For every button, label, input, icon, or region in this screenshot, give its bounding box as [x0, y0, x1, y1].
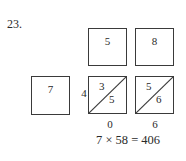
- lattice-cell-2: 5 6: [135, 76, 174, 114]
- multiplicand-digit-box-1: 5: [88, 28, 127, 66]
- lattice-cell-1-ones: 5: [109, 94, 115, 105]
- lattice-cell-1: 3 5: [88, 76, 127, 114]
- lattice-cell-2-tens: 5: [146, 81, 152, 92]
- multiplicand-digit-box-2: 8: [135, 28, 174, 66]
- bottom-sum-1: 0: [105, 119, 115, 130]
- multiplicand-digit-1: 5: [89, 36, 126, 47]
- diagonal-line: [136, 77, 173, 113]
- lattice-cell-1-tens: 3: [99, 81, 105, 92]
- result-equation: 7 × 58 = 406: [96, 134, 160, 147]
- multiplicand-digit-2: 8: [136, 36, 173, 47]
- lattice-cell-2-ones: 6: [156, 94, 162, 105]
- left-carry-digit: 4: [80, 88, 88, 99]
- multiplier-digit: 7: [32, 84, 69, 95]
- multiplier-box: 7: [31, 76, 70, 115]
- bottom-sum-2: 6: [150, 119, 160, 130]
- diagonal-line: [89, 77, 126, 113]
- problem-number: 23.: [7, 18, 22, 30]
